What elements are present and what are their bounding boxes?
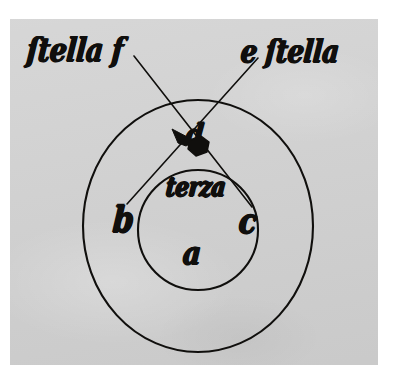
label-stella-f: ſtella f [26,33,125,66]
label-point-a: a [182,238,202,270]
label-point-c: c [238,204,258,238]
label-terza: terza [165,173,227,199]
figure-root: ſtella f e ſtella d b c terza a [0,0,395,378]
label-point-b: b [112,202,136,238]
label-point-d: d [184,120,205,150]
label-e-stella: e ſtella [240,35,341,67]
